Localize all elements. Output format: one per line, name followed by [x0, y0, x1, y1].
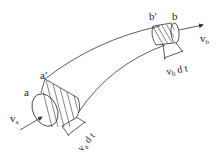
label-a: a — [24, 86, 29, 98]
dim-a-line — [68, 122, 85, 135]
dim-a-ext-1 — [62, 126, 69, 136]
label-b-prime: b′ — [149, 10, 157, 22]
label-vb-dt: vb d t — [165, 62, 188, 79]
label-a-prime: a′ — [40, 69, 47, 81]
velocity-b-arrow — [179, 25, 203, 30]
tube-upper-wall — [45, 26, 160, 79]
dim-b-ext-2 — [176, 43, 183, 52]
dim-b-line — [164, 51, 183, 58]
label-b: b — [172, 10, 178, 22]
cross-section-a — [27, 90, 63, 131]
streamtube-diagram: a a′ b′ b va vb va d t vb d t — [0, 0, 222, 163]
label-va: va — [10, 112, 20, 126]
velocity-a-arrow — [20, 117, 42, 130]
label-vb: vb — [200, 32, 210, 46]
tube-lower-wall — [78, 45, 165, 113]
label-va-dt: va d t — [75, 130, 99, 155]
